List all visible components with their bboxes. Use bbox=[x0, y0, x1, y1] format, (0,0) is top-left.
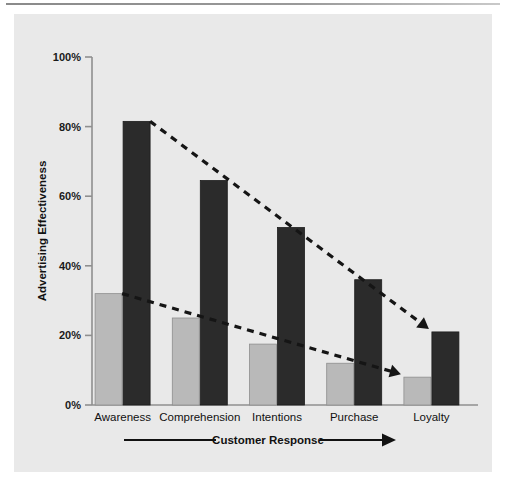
y-axis-tick-label: 80% bbox=[59, 121, 81, 133]
bar-awareness-light-gray-series bbox=[95, 294, 122, 405]
bar-purchase-light-gray-series bbox=[327, 363, 354, 405]
gray-trend-arrow-arrowhead-icon bbox=[389, 365, 401, 377]
y-axis-tick-label: 20% bbox=[59, 329, 81, 341]
bar-chart: 0%20%40%60%80%100% Advertising Effective… bbox=[0, 0, 506, 489]
y-axis-title: Advertising Effectiveness bbox=[36, 161, 48, 302]
x-axis-category-labels: AwarenessComprehensionIntentionsPurchase… bbox=[94, 411, 450, 423]
y-axis-tick-label: 60% bbox=[59, 190, 81, 202]
x-axis-category-label: Loyalty bbox=[413, 411, 450, 423]
bar-awareness-dark-series bbox=[123, 121, 150, 405]
figure-container: 0%20%40%60%80%100% Advertising Effective… bbox=[0, 0, 506, 489]
x-axis-category-label: Comprehension bbox=[159, 411, 240, 423]
customer-response-arrowhead-icon bbox=[382, 434, 396, 447]
bar-intentions-dark-series bbox=[278, 228, 305, 405]
x-axis-category-label: Intentions bbox=[252, 411, 302, 423]
y-axis-tick-labels: 0%20%40%60%80%100% bbox=[53, 51, 81, 411]
bars-layer bbox=[95, 121, 459, 405]
trend-annotations bbox=[122, 121, 429, 377]
bar-comprehension-light-gray-series bbox=[172, 318, 199, 405]
y-axis-tick-label: 100% bbox=[53, 51, 81, 63]
bar-intentions-light-gray-series bbox=[250, 344, 277, 405]
x-axis-category-label: Awareness bbox=[94, 411, 151, 423]
customer-response-arrow: Customer Response bbox=[124, 434, 396, 447]
y-axis-tick-label: 40% bbox=[59, 260, 81, 272]
x-axis-category-label: Purchase bbox=[330, 411, 379, 423]
bar-loyalty-light-gray-series bbox=[404, 377, 431, 405]
bar-loyalty-dark-series bbox=[432, 332, 459, 405]
y-axis-tick-label: 0% bbox=[65, 399, 81, 411]
bar-purchase-dark-series bbox=[355, 280, 382, 405]
x-axis-title: Customer Response bbox=[212, 434, 324, 446]
bar-comprehension-dark-series bbox=[200, 181, 227, 405]
y-axis-ticks bbox=[85, 57, 92, 405]
dark-trend-arrow-arrowhead-icon bbox=[416, 317, 429, 329]
